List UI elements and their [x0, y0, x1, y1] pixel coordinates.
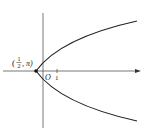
svg-text:, π): , π) [22, 59, 33, 68]
vertex-point [34, 69, 38, 73]
svg-text:(: ( [12, 58, 15, 68]
tick-label-1: 1 [55, 74, 59, 82]
parabola-diagram: ( 1 2 , π) O 1 [0, 0, 146, 138]
svg-text:1: 1 [18, 56, 21, 62]
svg-text:2: 2 [18, 63, 21, 69]
x-axis-arrow-icon [135, 69, 141, 73]
vertex-label: ( 1 2 , π) [12, 56, 33, 69]
origin-label: O [45, 73, 51, 82]
